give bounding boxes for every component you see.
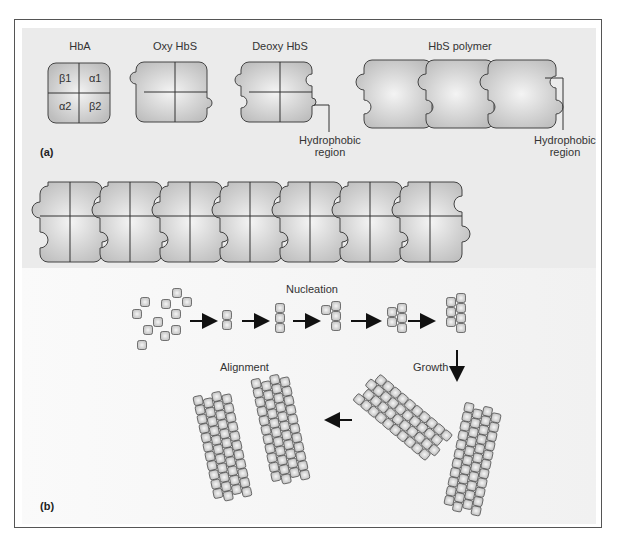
subunit-beta1: β1	[59, 72, 71, 84]
hbs-fibers	[193, 371, 502, 516]
deoxy-hbs-title: Deoxy HbS	[245, 40, 315, 52]
subunit-beta2: β2	[89, 100, 101, 112]
hba-title: HbA	[60, 40, 100, 52]
hydrophobic-callout-1: Hydrophobic region	[295, 134, 365, 158]
oxy-hbs-title: Oxy HbS	[145, 40, 205, 52]
growth-label: Growth	[413, 361, 448, 373]
subunit-alpha1: α1	[89, 72, 101, 84]
nucleation-label: Nucleation	[286, 283, 338, 295]
panel-b-label: (b)	[40, 500, 54, 512]
panel-a-label: (a)	[40, 146, 53, 158]
free-monomers	[133, 289, 192, 350]
alignment-label: Alignment	[220, 361, 269, 373]
deoxy-hbs-tetramer	[235, 62, 329, 132]
hydrophobic-callout-2: Hydrophobic region	[530, 134, 600, 158]
oxy-hbs-tetramer	[130, 62, 212, 122]
hbs-polymer-title: HbS polymer	[410, 40, 510, 52]
subunit-alpha2: α2	[59, 100, 71, 112]
hbs-polymer-long	[32, 182, 470, 262]
hbs-polymer-short	[356, 60, 563, 130]
